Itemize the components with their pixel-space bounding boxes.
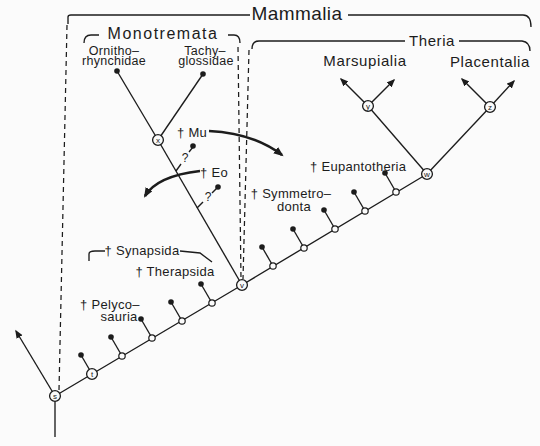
synapsida-bracket: † Synapsida [89, 243, 212, 262]
lineage-arrows [16, 79, 514, 396]
node-s-label: s [53, 392, 57, 401]
ornithorhynchidae-dot [114, 68, 120, 74]
root-arrow [16, 331, 55, 396]
theria-label: Theria [409, 32, 455, 49]
monotremata-bracket: Monotremata [84, 25, 240, 43]
node-v: v [237, 280, 248, 291]
node-z-label: z [488, 103, 492, 112]
eo-curved-arrow [145, 171, 200, 196]
spine-tick [138, 316, 155, 341]
spine-tick [351, 189, 368, 214]
eo-question-mark: ? [205, 190, 212, 204]
spine-tick [290, 226, 307, 251]
theria-bracket: Theria [252, 32, 530, 51]
node-z: z [485, 102, 496, 113]
monotremata-label: Monotremata [108, 25, 219, 42]
mammalia-bracket: Mammalia [68, 3, 531, 27]
node-t: t [87, 369, 98, 380]
ornithorhynchidae-label-line2: rhynchidae [82, 54, 146, 68]
mu-curved-arrow [209, 131, 282, 155]
symmetrodonta-label-line2: donta [277, 199, 312, 214]
node-w-label: w [423, 170, 430, 179]
mu-question-mark: ? [182, 151, 189, 165]
node-y-label: y [366, 102, 370, 111]
node-v-label: v [240, 281, 244, 290]
mammalia-title: Mammalia [252, 3, 343, 24]
tachyglossidae-dot [200, 71, 206, 77]
dashed-line-mid-right [243, 50, 249, 279]
ornithorhynchidae-branch [117, 71, 158, 140]
mu-label: † Mu [177, 125, 207, 140]
tachyglossidae-label-line2: glossidae [178, 54, 234, 68]
spine-tick [108, 334, 125, 359]
node-x: x [153, 135, 164, 146]
pelycosauria-label-line2: sauria [100, 309, 138, 324]
eupantotheria-label: † Eupantotheria [310, 159, 407, 174]
mu-attachment: ? [176, 143, 196, 171]
node-w: w [422, 169, 433, 180]
placentalia-label: Placentalia [450, 53, 530, 70]
spine-tick [168, 299, 185, 324]
dashed-line-mid-left [238, 47, 241, 279]
mu-terminal-dot [190, 143, 196, 149]
spine-tick [321, 207, 338, 232]
eo-attachment: ? [197, 184, 221, 208]
node-y: y [363, 101, 374, 112]
eo-terminal-dot [215, 184, 221, 190]
placentalia-stem [427, 107, 490, 174]
eo-label: † Eo [200, 165, 228, 180]
node-s: s [50, 391, 61, 402]
synapsida-label: † Synapsida [105, 243, 180, 258]
spine-tick [259, 244, 276, 269]
node-x-label: x [156, 136, 160, 145]
therapsida-label: † Therapsida [135, 264, 215, 279]
spine-tick [198, 281, 215, 306]
cladogram-svg: Mammalia Theria Monotremata † Synapsida [0, 0, 540, 446]
dashed-line-left [59, 25, 67, 390]
marsupialia-label: Marsupialia [323, 52, 406, 69]
cladogram-figure: Mammalia Theria Monotremata † Synapsida [0, 0, 540, 446]
